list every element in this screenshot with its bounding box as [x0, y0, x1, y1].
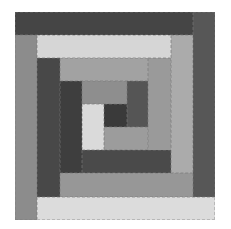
- outer-right-strip: [193, 12, 215, 197]
- ring2-left-strip: [37, 58, 60, 197]
- ring3-left-strip: [60, 81, 82, 173]
- outer-top-strip: [15, 12, 193, 35]
- ring4-top-strip: [82, 81, 127, 104]
- ring2-bottom-strip: [60, 173, 193, 197]
- ring3-bottom-strip: [82, 150, 171, 173]
- ring4-bottom-strip: [104, 127, 148, 150]
- ring4-right-strip: [127, 81, 148, 127]
- ring4-left-strip: [82, 104, 104, 150]
- ring3-top-strip: [60, 58, 148, 81]
- ring2-top-strip: [37, 35, 171, 58]
- outer-bottom-strip: [37, 197, 215, 220]
- log-cabin-quilt-block: [0, 0, 231, 229]
- outer-left-strip: [15, 35, 37, 220]
- ring2-right-strip: [171, 35, 193, 173]
- center-square: [104, 104, 127, 127]
